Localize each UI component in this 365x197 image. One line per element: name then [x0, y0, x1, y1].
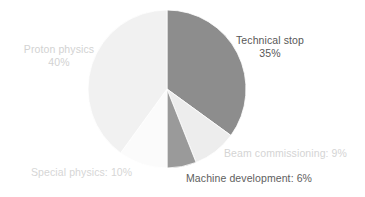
slice-label-technical-stop-name: Technical stop — [236, 34, 304, 46]
pie-slice-group — [88, 10, 246, 168]
slice-label-technical-stop: Technical stop 35% — [236, 34, 304, 60]
slice-label-proton-physics-value: 40% — [13, 56, 105, 69]
slice-label-beam-commissioning: Beam commissioning: 9% — [224, 147, 347, 160]
slice-label-technical-stop-value: 35% — [236, 47, 304, 60]
slice-label-proton-physics: Proton physics 40% — [13, 43, 105, 69]
pie-chart-figure: Technical stop 35% Proton physics 40% Sp… — [0, 0, 365, 197]
slice-label-special-physics: Special physics: 10% — [31, 166, 132, 179]
slice-label-machine-development: Machine development: 6% — [186, 172, 312, 185]
slice-label-proton-physics-name: Proton physics — [24, 43, 94, 55]
